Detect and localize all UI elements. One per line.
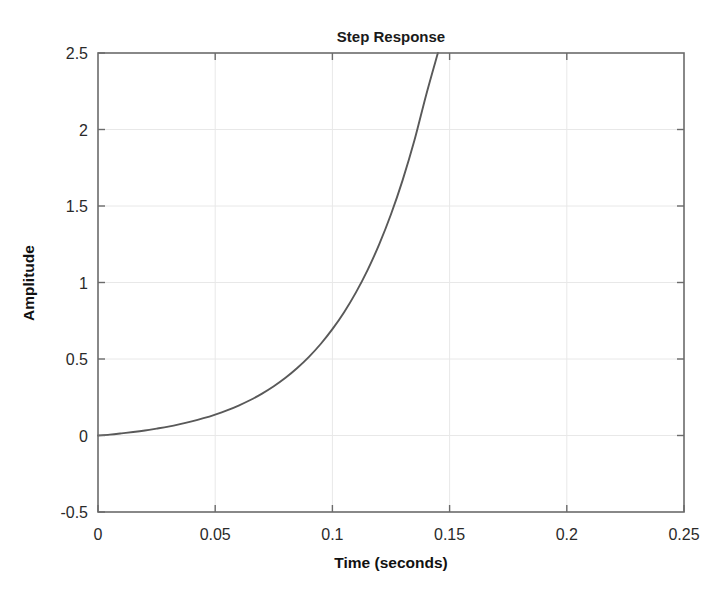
- x-tick-labels: 0 0.05 0.1 0.15 0.2 0.25: [94, 526, 700, 543]
- y-tick-label--0.5: -0.5: [60, 504, 88, 521]
- x-tick-label-0.1: 0.1: [321, 526, 343, 543]
- x-tick-label-0: 0: [94, 526, 103, 543]
- x-axis-label: Time (seconds): [334, 554, 447, 571]
- y-tick-label-1.5: 1.5: [66, 198, 88, 215]
- y-tick-label-0.5: 0.5: [66, 351, 88, 368]
- y-tick-labels: -0.5 0 0.5 1 1.5 2 2.5: [60, 45, 88, 521]
- x-tick-label-0.2: 0.2: [556, 526, 578, 543]
- y-tick-label-1: 1: [79, 275, 88, 292]
- y-tick-label-0: 0: [79, 428, 88, 445]
- x-tick-label-0.05: 0.05: [200, 526, 231, 543]
- y-tick-label-2: 2: [79, 122, 88, 139]
- y-tick-label-2.5: 2.5: [66, 45, 88, 62]
- x-tick-label-0.15: 0.15: [434, 526, 465, 543]
- x-tick-label-0.25: 0.25: [668, 526, 699, 543]
- chart-title: Step Response: [337, 28, 445, 45]
- y-axis-label: Amplitude: [20, 245, 37, 321]
- step-response-chart: Step Response 0 0.05 0.1 0.15 0.2 0.25 -…: [0, 0, 722, 598]
- figure-canvas: Step Response 0 0.05 0.1 0.15 0.2 0.25 -…: [0, 0, 722, 598]
